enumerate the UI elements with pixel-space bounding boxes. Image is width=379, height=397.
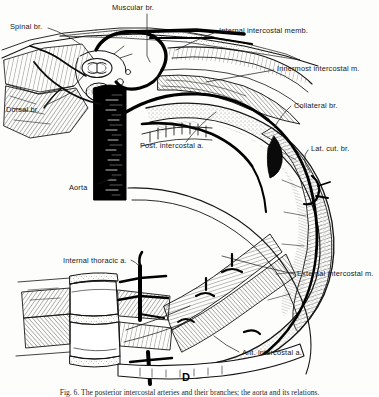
label-lat-cut-br: Lat. cut. br. <box>311 144 350 153</box>
label-external-intercostal-m: External intercostal m. <box>297 269 374 278</box>
figure-caption: Fig. 6. The posterior intercostal arteri… <box>0 388 379 397</box>
label-internal-intercostal-memb: Internal intercostal memb. <box>219 26 308 35</box>
label-post-intercostal-a: Post. intercostal a. <box>140 141 204 150</box>
label-ant-intercostal-a: Ant. intercostal a. <box>242 348 302 357</box>
figure-panel-letter: D <box>182 371 190 383</box>
label-dorsal-br: Dorsal br. <box>6 105 39 114</box>
label-spinal-br: Spinal br. <box>10 22 42 31</box>
label-collateral-br: Collateral br. <box>294 101 338 110</box>
label-innermost-intercostal-m: Innermost intercostal m. <box>277 64 359 73</box>
label-aorta: Aorta <box>69 183 87 192</box>
label-muscular-br: Muscular br. <box>112 3 154 12</box>
label-internal-thoracic-a: Internal thoracic a. <box>63 256 127 265</box>
